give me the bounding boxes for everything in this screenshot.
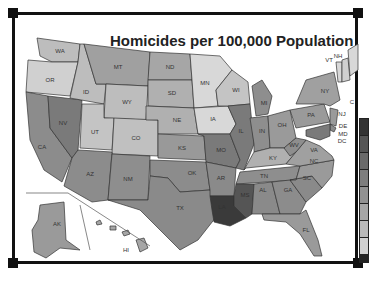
label-tn: TN xyxy=(260,173,268,179)
label-md: MD xyxy=(338,131,348,137)
label-oh: OH xyxy=(278,122,287,128)
label-il: IL xyxy=(238,128,244,134)
label-ar: AR xyxy=(217,175,226,181)
label-ga: GA xyxy=(284,187,293,193)
label-az: AZ xyxy=(86,171,94,177)
label-ky: KY xyxy=(269,155,277,161)
label-tx: TX xyxy=(176,205,184,211)
label-wi: WI xyxy=(232,87,240,93)
legend-swatch xyxy=(360,221,368,237)
legend-swatch xyxy=(360,187,368,203)
label-ks: KS xyxy=(178,145,186,151)
legend-swatch xyxy=(360,238,368,254)
label-ne: NE xyxy=(173,117,181,123)
state-hi xyxy=(136,238,148,252)
label-in: IN xyxy=(259,128,265,134)
state-ny xyxy=(296,72,340,106)
label-dc: DC xyxy=(338,138,347,144)
label-va: VA xyxy=(310,147,318,153)
label-ut: UT xyxy=(91,129,99,135)
legend-swatch xyxy=(360,170,368,186)
legend-swatch xyxy=(360,153,368,169)
label-or: OR xyxy=(46,77,56,83)
label-wv: WV xyxy=(289,142,299,148)
label-nc: NC xyxy=(310,158,319,164)
label-id: ID xyxy=(83,89,90,95)
label-nv: NV xyxy=(59,120,67,126)
color-legend xyxy=(359,118,369,263)
label-mo: MO xyxy=(216,147,226,153)
label-ny: NY xyxy=(321,88,329,94)
label-al: AL xyxy=(259,187,267,193)
state-vt xyxy=(336,62,342,82)
label-pa: PA xyxy=(307,112,315,118)
state-fl xyxy=(262,210,322,256)
label-ca: CA xyxy=(38,144,46,150)
label-fl: FL xyxy=(302,227,310,233)
hi-island-3 xyxy=(96,220,102,225)
label-ia: IA xyxy=(210,116,216,122)
label-ct: C xyxy=(350,99,355,105)
label-ak: AK xyxy=(53,221,61,227)
map-title: Homicides per 100,000 Population xyxy=(110,32,353,49)
label-co: CO xyxy=(132,135,141,141)
label-ok: OK xyxy=(188,170,197,176)
state-ak xyxy=(32,202,80,258)
inset-divider xyxy=(80,205,90,250)
legend-swatch xyxy=(360,119,368,135)
label-nj: NJ xyxy=(338,111,345,117)
label-de: DE xyxy=(339,123,347,129)
label-la: LA xyxy=(218,204,225,210)
state-mi xyxy=(252,80,272,116)
label-wy: WY xyxy=(122,99,132,105)
label-wa: WA xyxy=(55,48,64,54)
legend-swatch xyxy=(360,136,368,152)
state-md xyxy=(306,124,330,140)
label-sd: SD xyxy=(168,90,177,96)
label-nd: ND xyxy=(166,64,175,70)
state-nj xyxy=(330,108,338,126)
label-sc: SC xyxy=(303,175,312,181)
label-mi: MI xyxy=(261,100,268,106)
label-hi: HI xyxy=(123,247,129,253)
label-mt: MT xyxy=(114,64,123,70)
legend-swatch xyxy=(360,204,368,220)
label-ms: MS xyxy=(241,192,250,198)
hi-island-2 xyxy=(110,226,116,230)
label-vt: VT xyxy=(325,57,333,63)
label-nm: NM xyxy=(123,176,132,182)
label-nh: NH xyxy=(334,53,343,59)
label-mn: MN xyxy=(200,80,209,86)
